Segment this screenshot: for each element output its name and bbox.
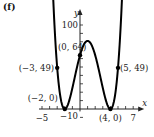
point-label: (0, 64) <box>58 42 86 52</box>
labels: −57100−10xy(−3, 49)(0, 64)(5, 49)(−2, 0)… <box>19 8 148 123</box>
chart: −57100−10xy(−3, 49)(0, 64)(5, 49)(−2, 0)… <box>0 0 154 137</box>
point-label: (−3, 49) <box>19 63 54 73</box>
data-point <box>78 53 82 57</box>
y-tick-label: 100 <box>62 20 78 30</box>
y-axis-label: y <box>73 8 79 18</box>
x-tick-label: −5 <box>36 113 49 123</box>
y-tick-label: −10 <box>60 111 78 121</box>
data-point <box>55 66 59 70</box>
function-curve <box>53 0 122 109</box>
x-tick-label: 7 <box>130 113 135 123</box>
point-label: (5, 49) <box>120 63 148 73</box>
x-axis-label: x <box>142 98 147 108</box>
points <box>55 53 120 111</box>
point-label: (4, 0) <box>99 113 122 123</box>
point-label: (−2, 0) <box>28 93 58 103</box>
data-point <box>108 107 112 111</box>
